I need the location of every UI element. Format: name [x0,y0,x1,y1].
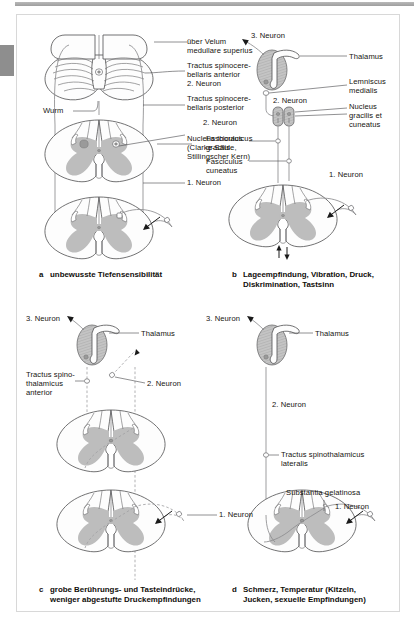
cord-bottom-arrows-b [276,245,289,260]
panel-b-caption-2: Diskrimination, Tastsinn [243,280,334,290]
label-tractus-spinothalamicus-anterior-2: thalamicus [26,379,63,388]
label-neuron-3-b: 3. Neuron [251,31,285,40]
thalamus-b [257,50,299,90]
panel-d-caption-1: Schmerz, Temperatur (Kitzeln, [243,585,356,595]
label-neuron-2-b: 2. Neuron [273,96,307,105]
label-tractus-spinothalamicus-lateralis-1: Tractus spinothalamicus [281,450,364,459]
panel-b-artwork [229,39,356,260]
label-tractus-spinothalamicus-anterior-3: anterior [26,388,52,397]
label-neuron-2-anterior: 2. Neuron [187,79,221,88]
figure-page: über Velum medullare superius Tractus sp… [0,0,414,629]
figure-frame: über Velum medullare superius Tractus sp… [16,14,400,612]
label-tractus-spinothalamicus-anterior-1: Tractus spino- [26,370,75,379]
label-thalamus-c: Thalamus [141,329,175,338]
label-neuron-1-a: 1. Neuron [187,178,221,187]
label-nucleus-gracilis-1: Nucleus [349,102,377,111]
panel-d-artwork [247,316,375,552]
label-velum-medullare: medullare superius [187,46,253,55]
panel-c-caption-1: grobe Berührungs- und Tasteindrücke, [50,585,195,595]
label-fasciculus-gracilis-2: gracilis [206,143,230,152]
label-tractus-spinocerebellaris-anterior-2: bellaris anterior [187,70,240,79]
label-neuron-1-c: 1. Neuron [219,510,253,519]
label-fasciculus-cuneatus-1: Fasciculus [206,157,243,166]
label-nucleus-gracilis-3: cuneatus [349,120,380,129]
label-neuron-1-d: 1. Neuron [335,502,369,511]
label-thalamus-d: Thalamus [315,329,349,338]
neuron-3-arrow-c [67,316,84,330]
label-tractus-spinothalamicus-lateralis-2: lateralis [281,459,308,468]
label-tractus-spinocerebellaris-anterior-1: Tractus spinocere- [187,61,251,70]
thalamus-c [77,325,119,365]
panel-b-letter: b [232,270,237,279]
panel-a-artwork [45,35,192,259]
label-lemniscus-medialis-2: medialis [349,86,377,95]
cord-section-lower-c [57,490,165,552]
cord-section-lumbar-a [45,197,153,259]
label-fasciculus-gracilis-1: Fasciculus [206,134,243,143]
cerebellum [45,35,153,111]
label-neuron-2-d: 2. Neuron [272,400,306,409]
panel-b-caption-1: Lageempfindung, Vibration, Druck, [243,270,374,280]
page-top-rule [15,2,414,6]
label-lemniscus-medialis-1: Lemniscus [349,77,386,86]
label-tractus-spinocerebellaris-posterior-1: Tractus spinocere- [187,94,251,103]
label-substantia-gelatinosa: Substantia gelatinosa [286,488,360,497]
label-neuron-2-posterior: 2. Neuron [203,118,237,127]
label-neuron-3-d: 3. Neuron [206,314,240,323]
cord-section-thoracic-a [45,120,153,182]
nucleus-gracilis-cuneatus-b [273,107,347,126]
neuron-3-arrow-d [247,316,264,330]
label-ueber-velum: über Velum [187,37,226,46]
panel-c-letter: c [39,585,43,594]
panel-c-caption-2: weniger abgestufte Druckempfindungen [50,595,201,605]
neuron-2-branch-c [108,349,145,383]
cord-section-d [248,490,356,552]
label-wurm: Wurm [43,106,63,115]
label-thalamus-b: Thalamus [349,52,383,61]
label-neuron-3-c: 3. Neuron [26,314,60,323]
label-neuron-1-b: 1. Neuron [329,170,363,179]
thalamus-d [257,325,299,365]
cord-section-b [229,185,337,247]
panel-d-letter: d [232,585,237,594]
cord-section-upper-c [57,410,165,472]
label-nucleus-gracilis-2: gracilis et [349,111,382,120]
label-tractus-spinocerebellaris-posterior-2: bellaris posterior [187,103,244,112]
panel-c-artwork [57,316,217,580]
page-edge-tab [0,45,14,76]
label-fasciculus-cuneatus-2: cuneatus [206,166,237,175]
label-neuron-2-c: 2. Neuron [147,379,181,388]
panel-a-caption: unbewusste Tiefensensibilität [50,270,162,280]
panel-a-letter: a [39,270,43,279]
panel-d-caption-2: Jucken, sexuelle Empfindungen) [243,595,366,605]
